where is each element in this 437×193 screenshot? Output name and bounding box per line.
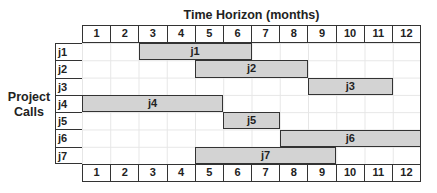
month-tick: 6 [224, 26, 252, 42]
y-axis-label-line2: Calls [4, 105, 54, 120]
gantt-bar: j7 [195, 147, 336, 164]
month-header-top: 123456789101112 [82, 25, 421, 43]
month-tick: 5 [196, 26, 224, 42]
row-label: j6 [56, 130, 82, 147]
gantt-bar: j6 [280, 130, 421, 147]
month-tick: 5 [196, 165, 224, 181]
month-tick: 7 [252, 165, 280, 181]
y-axis-label: Project Calls [4, 90, 54, 120]
gantt-bar: j1 [139, 43, 252, 60]
month-tick: 4 [168, 165, 196, 181]
month-tick: 6 [224, 165, 252, 181]
gantt-bar: j4 [82, 95, 223, 112]
gantt-bar: j2 [195, 60, 308, 77]
month-tick: 9 [308, 165, 336, 181]
row-label: j4 [56, 96, 82, 113]
y-axis-label-line1: Project [4, 90, 54, 105]
row-label: j2 [56, 61, 82, 78]
gantt-body: j1j2j3j4j5j6j7 [82, 43, 421, 164]
month-header-bottom: 123456789101112 [82, 164, 421, 182]
month-tick: 8 [280, 26, 308, 42]
month-tick: 4 [168, 26, 196, 42]
gantt-bar: j3 [308, 78, 393, 95]
month-tick: 1 [83, 165, 111, 181]
month-tick: 11 [365, 26, 393, 42]
month-tick: 3 [139, 26, 167, 42]
month-tick: 9 [308, 26, 336, 42]
row-label: j5 [56, 113, 82, 130]
month-tick: 2 [111, 26, 139, 42]
month-tick: 12 [393, 165, 420, 181]
month-tick: 3 [139, 165, 167, 181]
gantt-bar: j5 [223, 112, 280, 129]
row-label: j1 [56, 44, 82, 61]
row-label: j7 [56, 148, 82, 165]
month-tick: 1 [83, 26, 111, 42]
month-tick: 10 [337, 26, 365, 42]
row-labels: j1j2j3j4j5j6j7 [55, 43, 82, 164]
month-tick: 7 [252, 26, 280, 42]
month-tick: 11 [365, 165, 393, 181]
month-tick: 10 [337, 165, 365, 181]
chart-title: Time Horizon (months) [82, 8, 421, 22]
row-label: j3 [56, 79, 82, 96]
gantt-grid: 123456789101112 j1j2j3j4j5j6j7 123456789… [82, 25, 421, 182]
month-tick: 2 [111, 165, 139, 181]
month-tick: 8 [280, 165, 308, 181]
month-tick: 12 [393, 26, 420, 42]
